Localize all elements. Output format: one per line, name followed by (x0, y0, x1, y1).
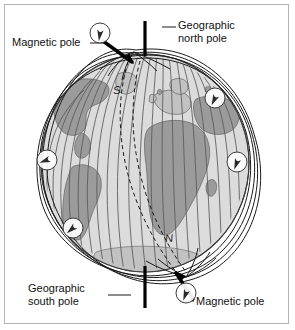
label-magnetic-pole-south: Magnetic pole (196, 295, 265, 308)
landmass-island-a (157, 89, 161, 94)
globe-polarity-letter-s: S (112, 84, 121, 97)
landmass-british-isles (149, 94, 156, 102)
globe (41, 54, 249, 273)
globe-polarity-letter-n: N (164, 232, 173, 245)
label-geographic-north-pole: Geographic north pole (178, 19, 235, 44)
figure-page: Magnetic pole Geographic north pole Geog… (0, 0, 295, 330)
label-geographic-south-pole: Geographic south pole (28, 282, 85, 307)
label-magnetic-pole-north: Magnetic pole (12, 36, 81, 49)
compass-mid-right (227, 152, 247, 172)
compass-mid-left (37, 150, 57, 170)
compass-north-pole (90, 23, 110, 43)
compass-south-pole (176, 283, 196, 303)
earth-magnetic-field-diagram (0, 0, 295, 330)
compass-upper-right (205, 88, 225, 108)
compass-lower-left (63, 218, 83, 238)
